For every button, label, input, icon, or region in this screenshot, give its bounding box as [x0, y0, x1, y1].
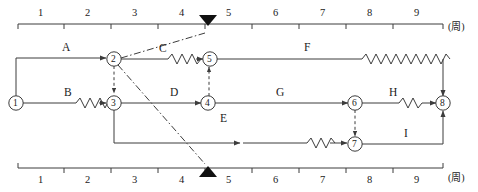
top-axis-tick-8: 8	[367, 8, 372, 19]
activity-G-label: G	[276, 87, 284, 99]
top-axis-tick-3: 3	[132, 8, 137, 19]
edge-B	[23, 98, 114, 108]
dummy-arrows	[114, 66, 355, 136]
node-5-label: 5	[207, 55, 212, 65]
bottom-axis-tick-2: 2	[85, 175, 90, 186]
bottom-axis-tick-6: 6	[273, 175, 278, 186]
top-time-axis-line	[18, 24, 443, 29]
top-axis-tick-7: 7	[320, 8, 325, 19]
top-axis-tick-9: 9	[414, 8, 419, 19]
node-3-label: 3	[111, 99, 116, 109]
bottom-axis-tick-1: 1	[38, 175, 43, 186]
activity-D-label: D	[170, 87, 178, 99]
edge-F	[217, 54, 450, 96]
activity-F-label: F	[304, 42, 310, 54]
node-2-label: 2	[111, 55, 116, 65]
edge-A	[16, 58, 106, 97]
dashdot-node2-to-bottom-marker	[118, 65, 205, 164]
edge-H	[362, 98, 436, 108]
bottom-axis-tick-4: 4	[179, 175, 184, 186]
top-axis-tick-2: 2	[85, 8, 90, 19]
activity-B-label: B	[64, 87, 72, 99]
activity-I-label: I	[404, 128, 408, 140]
node-circles	[9, 52, 450, 151]
bottom-axis-tick-3: 3	[132, 175, 137, 186]
bottom-time-axis-line	[18, 163, 443, 173]
bottom-axis-tick-9: 9	[414, 175, 419, 186]
edge-I	[362, 111, 443, 144]
bottom-axis-tick-8: 8	[367, 175, 372, 186]
top-axis-tick-6: 6	[273, 8, 278, 19]
edge-C	[121, 54, 203, 64]
edge-E	[114, 110, 347, 148]
node-8-label: 8	[440, 99, 445, 109]
bottom-axis-tick-7: 7	[320, 175, 325, 186]
node-4-label: 4	[205, 99, 210, 109]
diagram-canvas: 1 2 3 4 5 6 7 8 9 (周) 1 2 3 4 5 6 7 8 9 …	[0, 0, 478, 192]
activity-H-label: H	[389, 87, 397, 99]
activity-E-label: E	[220, 113, 227, 125]
bottom-axis-tick-5: 5	[226, 175, 231, 186]
top-axis-unit-label: (周)	[448, 22, 465, 32]
top-axis-tick-1: 1	[38, 8, 43, 19]
node-1-label: 1	[13, 99, 18, 109]
top-axis-tick-5: 5	[226, 8, 231, 19]
activity-C-label: C	[159, 43, 167, 55]
node-7-label: 7	[352, 140, 357, 150]
node-6-label: 6	[352, 99, 357, 109]
activity-A-label: A	[62, 42, 70, 54]
bottom-axis-unit-label: (周)	[448, 173, 465, 183]
top-axis-tick-4: 4	[179, 8, 184, 19]
